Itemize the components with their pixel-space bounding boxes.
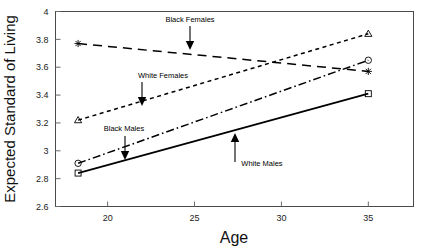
y-tick-label: 3.8 [36, 35, 49, 45]
x-tick-label: 35 [363, 213, 373, 223]
y-tick-label: 3.4 [36, 90, 49, 100]
chart-figure: 2.62.833.23.43.63.84 20253035 Black Fema… [0, 0, 422, 251]
y-tick-label: 4 [43, 7, 48, 17]
chart-background [0, 0, 422, 251]
series-annotation-label: Black Females [165, 15, 214, 24]
series-annotation-label: White Females [138, 71, 188, 80]
x-tick-label: 20 [103, 213, 113, 223]
x-axis-title: Age [220, 229, 249, 246]
y-tick-label: 3 [43, 146, 48, 156]
series-annotation-label: White Males [241, 159, 283, 168]
x-tick-label: 25 [190, 213, 200, 223]
y-tick-label: 2.8 [36, 174, 49, 184]
series-annotation-label: Black Males [104, 124, 145, 133]
chart-svg: 2.62.833.23.43.63.84 20253035 Black Fema… [0, 0, 422, 251]
y-axis-title: Expected Standard of Living [1, 15, 18, 203]
x-tick-label: 30 [276, 213, 286, 223]
y-tick-label: 3.6 [36, 62, 49, 72]
y-tick-label: 2.6 [36, 202, 49, 212]
y-tick-label: 3.2 [36, 118, 49, 128]
